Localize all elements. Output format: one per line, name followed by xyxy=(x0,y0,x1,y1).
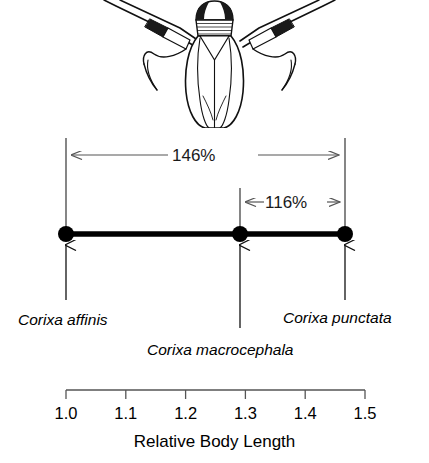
percent-label-146: 146% xyxy=(172,146,215,166)
species-label-corixa-affinis: Corixa affinis xyxy=(18,311,108,329)
axis-tick-label-1-4: 1.4 xyxy=(281,404,329,423)
axis-tick-label-1-1: 1.1 xyxy=(102,404,150,423)
axis-tick-label-1-3: 1.3 xyxy=(221,404,269,423)
axis-ticks xyxy=(66,390,365,399)
data-point-punctata xyxy=(337,226,353,242)
relative-body-length-figure: 146% 116% Corixa affinis Corixa punctata… xyxy=(0,0,429,463)
species-label-corixa-macrocephala: Corixa macrocephala xyxy=(147,341,293,359)
data-point-affinis xyxy=(58,226,74,242)
axis-tick-label-1-5: 1.5 xyxy=(341,404,389,423)
x-axis xyxy=(0,386,429,406)
species-label-corixa-punctata: Corixa punctata xyxy=(283,309,392,327)
axis-tick-label-1-0: 1.0 xyxy=(42,404,90,423)
axis-tick-label-1-2: 1.2 xyxy=(162,404,210,423)
x-axis-title: Relative Body Length xyxy=(0,432,429,452)
water-boatman-dorsal-line-drawing xyxy=(0,0,429,128)
percent-label-116: 116% xyxy=(265,193,307,213)
data-point-macrocephala xyxy=(232,226,248,242)
